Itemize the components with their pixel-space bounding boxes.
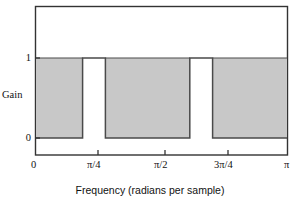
y-axis-title: Gain: [2, 89, 33, 101]
x-tick-label-0: 0: [31, 159, 36, 170]
fill-band-2: [105, 58, 189, 138]
x-tick-label-pi: π: [284, 159, 289, 170]
fill-band-3: [213, 58, 287, 138]
y-tick-label-zero: 0: [10, 132, 31, 143]
gain-fill-regions: [36, 58, 287, 138]
x-tick-label-3pi-over-4: 3π/4: [214, 159, 233, 170]
y-tick-label-one: 1: [10, 52, 31, 63]
x-axis-title: Frequency (radians per sample): [0, 184, 300, 196]
chart-canvas: [0, 0, 300, 202]
filter-response-chart: 0 π/4 π/2 3π/4 π 1 0 Gain Frequency (rad…: [0, 0, 300, 202]
fill-band-1: [36, 58, 83, 138]
x-tick-label-pi-over-4: π/4: [87, 159, 100, 170]
x-tick-label-pi-over-2: π/2: [154, 159, 167, 170]
